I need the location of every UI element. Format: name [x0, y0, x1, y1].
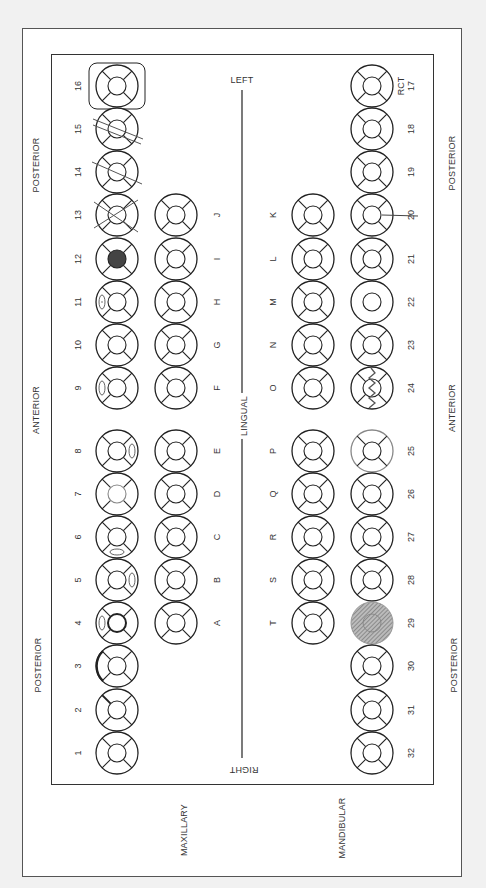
tooth-5[interactable]	[96, 559, 138, 601]
tooth-14[interactable]	[92, 151, 142, 193]
tooth-H[interactable]	[155, 281, 197, 323]
tooth-letter-S: S	[268, 577, 278, 583]
tooth-8[interactable]	[96, 430, 138, 472]
tooth-number-26: 26	[406, 489, 416, 499]
tooth-19[interactable]	[351, 151, 393, 193]
tooth-E[interactable]	[155, 430, 197, 472]
tooth-number-31: 31	[406, 705, 416, 715]
tooth-letter-M: M	[268, 298, 278, 306]
tooth-1[interactable]	[96, 732, 138, 774]
tooth-number-16: 16	[73, 81, 83, 91]
tooth-number-13: 13	[73, 210, 83, 220]
tooth-number-15: 15	[73, 124, 83, 134]
tooth-21[interactable]	[351, 238, 393, 280]
tooth-6[interactable]	[96, 516, 138, 558]
tooth-number-12: 12	[73, 254, 83, 264]
tooth-number-11: 11	[73, 297, 83, 306]
tooth-24[interactable]	[351, 367, 393, 409]
label-lingual: LINGUAL	[239, 393, 249, 439]
tooth-B[interactable]	[155, 559, 197, 601]
tooth-16[interactable]	[89, 63, 145, 109]
label-left: LEFT	[231, 75, 254, 85]
tooth-P[interactable]	[292, 430, 334, 472]
tooth-26[interactable]	[351, 473, 393, 515]
tooth-7[interactable]	[96, 473, 138, 515]
tooth-number-22: 22	[406, 297, 416, 307]
tooth-letter-I: I	[212, 258, 222, 261]
tooth-K[interactable]	[292, 194, 334, 236]
tooth-L[interactable]	[292, 238, 334, 280]
tooth-F[interactable]	[155, 367, 197, 409]
label-maxillary: MAXILLARY	[179, 804, 189, 856]
label-mand-anterior: ANTERIOR	[447, 384, 457, 432]
tooth-32[interactable]	[351, 732, 393, 774]
tooth-11[interactable]	[96, 281, 138, 323]
tooth-number-9: 9	[73, 385, 83, 390]
tooth-number-5: 5	[73, 577, 83, 582]
tooth-9[interactable]	[96, 367, 138, 409]
label-mandibular: MANDIBULAR	[337, 797, 347, 858]
tooth-number-21: 21	[406, 254, 416, 264]
tooth-letter-E: E	[212, 448, 222, 454]
tooth-letter-B: B	[212, 577, 222, 583]
tooth-number-25: 25	[406, 446, 416, 456]
tooth-O[interactable]	[292, 367, 334, 409]
tooth-letter-F: F	[212, 385, 222, 391]
tooth-number-8: 8	[73, 448, 83, 453]
tooth-4[interactable]	[96, 602, 138, 644]
tooth-letter-P: P	[268, 448, 278, 454]
dental-chart: POSTERIOR ANTERIOR POSTERIOR POSTERIOR A…	[0, 0, 486, 888]
tooth-3[interactable]	[96, 645, 138, 687]
tooth-number-28: 28	[406, 575, 416, 585]
tooth-T[interactable]	[292, 602, 334, 644]
tooth-number-32: 32	[406, 748, 416, 758]
tooth-15[interactable]	[93, 108, 143, 150]
tooth-number-27: 27	[406, 532, 416, 542]
tooth-I[interactable]	[155, 238, 197, 280]
tooth-letter-O: O	[268, 384, 278, 391]
tooth-number-30: 30	[406, 661, 416, 671]
tooth-C[interactable]	[155, 516, 197, 558]
tooth-A[interactable]	[155, 602, 197, 644]
tooth-27[interactable]	[351, 516, 393, 558]
tooth-number-19: 19	[406, 167, 416, 177]
tooth-31[interactable]	[351, 689, 393, 731]
tooth-letter-T: T	[268, 620, 278, 626]
tooth-letter-G: G	[212, 341, 222, 348]
tooth-10[interactable]	[96, 324, 138, 366]
tooth-letter-R: R	[268, 534, 278, 541]
tooth-number-1: 1	[73, 750, 83, 755]
tooth-Q[interactable]	[292, 473, 334, 515]
tooth-25[interactable]	[351, 430, 393, 472]
tooth-S[interactable]	[292, 559, 334, 601]
tooth-29[interactable]	[351, 602, 393, 644]
tooth-number-18: 18	[406, 124, 416, 134]
tooth-13[interactable]	[94, 194, 138, 236]
label-max-anterior: ANTERIOR	[31, 386, 41, 434]
tooth-23[interactable]	[351, 324, 393, 366]
tooth-number-14: 14	[73, 167, 83, 177]
tooth-22[interactable]	[351, 281, 393, 323]
tooth-N[interactable]	[292, 324, 334, 366]
tooth-2[interactable]	[96, 689, 138, 731]
label-right: RIGHT	[230, 765, 259, 775]
tooth-G[interactable]	[155, 324, 197, 366]
tooth-J[interactable]	[155, 194, 197, 236]
tooth-number-24: 24	[406, 383, 416, 393]
tooth-M[interactable]	[292, 281, 334, 323]
label-mand-posterior-bottom: POSTERIOR	[449, 638, 459, 693]
tooth-30[interactable]	[351, 645, 393, 687]
tooth-12[interactable]	[96, 238, 138, 280]
tooth-letter-L: L	[268, 256, 278, 261]
label-max-posterior-top: POSTERIOR	[31, 138, 41, 193]
tooth-letter-K: K	[268, 212, 278, 218]
tooth-letter-Q: Q	[268, 490, 278, 497]
tooth-R[interactable]	[292, 516, 334, 558]
label-max-posterior-bottom: POSTERIOR	[33, 638, 43, 693]
tooth-28[interactable]	[351, 559, 393, 601]
tooth-17[interactable]	[351, 65, 393, 107]
tooth-D[interactable]	[155, 473, 197, 515]
tooth-18[interactable]	[351, 108, 393, 150]
tooth-letter-A: A	[212, 620, 222, 626]
tooth-note-17: RCT	[396, 77, 406, 96]
